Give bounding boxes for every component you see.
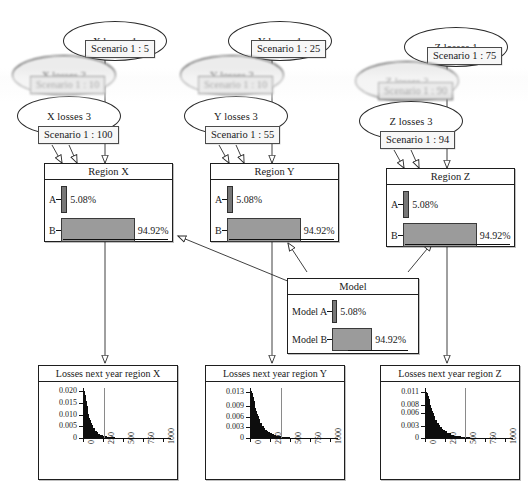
bar-label: B [215, 225, 222, 236]
scenario-tag-x-1[interactable]: Scenario 1 : 5 [85, 40, 155, 58]
chart-y-tick-label: 0.006 [381, 408, 419, 417]
bar-value: 5.08% [340, 306, 366, 317]
chart-x-tick-label: 0 [87, 440, 96, 444]
bar-fill-a [61, 186, 67, 213]
chart-x-tickmark [310, 438, 311, 442]
scenario-tag-label: Scenario 1 : 55 [211, 129, 274, 140]
scenario-tag-x-2[interactable]: Scenario 1 : 10 [30, 76, 105, 94]
panel-body: A 5.08% B 94.92% [45, 180, 172, 241]
bar-label: B [49, 225, 56, 236]
bar-value: 94.92% [138, 225, 169, 236]
bar-label: Model A [292, 306, 327, 317]
chart-y-tick-label: 0.008 [381, 400, 419, 409]
diagram-canvas: X losses 1 Scenario 1 : 5 X losses 2 Sce… [0, 0, 528, 486]
chart-plot-y: 00.0030.0060.0090.01302505007501000 [206, 382, 344, 478]
scenario-tag-x-3[interactable]: Scenario 1 : 100 [38, 126, 119, 144]
scenario-tag-z-2[interactable]: Scenario 1 : 90 [378, 82, 453, 100]
chart-y-tick-label: 0.006 [206, 412, 244, 421]
panel-body: Model A 5.08% Model B 94.92% [288, 295, 418, 353]
panel-baseline [229, 239, 334, 240]
bar-row-model-b: Model B 94.92% [292, 328, 406, 351]
chart-x-tickmark [270, 438, 271, 442]
chart-plot-z: 00.0030.0060.0080.01102505007501000 [381, 382, 519, 478]
chart-y-tick-label: 0.010 [39, 410, 77, 419]
chart-y-tick-label: 0.003 [206, 422, 244, 431]
bar-fill-a [403, 191, 409, 218]
chart-x-tick-label: 500 [294, 432, 303, 444]
chart-reference-line [281, 388, 282, 438]
chart-x-tick-label: 500 [127, 432, 136, 444]
chart-panel-region-z[interactable]: Losses next year region Z 00.0030.0060.0… [380, 365, 520, 480]
chart-x-tickmark [465, 438, 466, 442]
node-ellipse-label: Y losses 3 [214, 111, 258, 122]
scenario-tag-y-3[interactable]: Scenario 1 : 55 [205, 126, 280, 144]
chart-x-tickmark [123, 438, 124, 442]
panel-baseline [405, 244, 510, 245]
chart-x-tick-label: 750 [314, 432, 323, 444]
chart-y-tick-label: 0.015 [39, 398, 77, 407]
scenario-tag-label: Scenario 1 : 10 [36, 79, 99, 90]
panel-baseline [348, 350, 408, 351]
chart-x-tick-label: 250 [107, 432, 116, 444]
chart-x-tickmark [330, 438, 331, 442]
chart-y-tickmark [246, 406, 250, 407]
chart-x-tickmark [290, 438, 291, 442]
bar-label: A [215, 194, 222, 205]
chart-y-tick-label: 0 [206, 433, 244, 442]
chart-x-tick-label: 1000 [509, 428, 518, 444]
chart-y-tick-label: 0.013 [206, 387, 244, 396]
chart-y-tickmark [79, 415, 83, 416]
scenario-tag-label: Scenario 1 : 5 [91, 43, 149, 54]
chart-x-tick-label: 0 [429, 440, 438, 444]
bar-label: Model B [292, 334, 327, 345]
panel-model[interactable]: Model Model A 5.08% Model B 94.92% [287, 278, 419, 354]
bar-fill-model-b [332, 328, 372, 351]
scenario-tag-z-3[interactable]: Scenario 1 : 94 [380, 131, 455, 149]
chart-x-tick-label: 0 [254, 440, 263, 444]
scenario-tag-label: Scenario 1 : 75 [433, 50, 496, 61]
bar-label: A [391, 199, 398, 210]
bar-row-a: A 5.08% [49, 186, 96, 213]
panel-title: Region Z [387, 169, 514, 185]
chart-title: Losses next year region X [39, 366, 177, 382]
chart-x-tick-label: 1000 [167, 428, 176, 444]
chart-x-tickmark [163, 438, 164, 442]
bar-value: 5.08% [236, 194, 262, 205]
chart-x-tickmark [103, 438, 104, 442]
panel-baseline [63, 239, 168, 240]
chart-x-tick-label: 750 [489, 432, 498, 444]
chart-x-tickmark [445, 438, 446, 442]
chart-x-tickmark [250, 438, 251, 442]
chart-y-tickmark [246, 427, 250, 428]
chart-plot-x: 00.0050.0100.0150.02002505007501000 [39, 382, 177, 478]
chart-y-tickmark [79, 403, 83, 404]
scenario-tag-label: Scenario 1 : 25 [257, 43, 320, 54]
panel-region-z[interactable]: Region Z A 5.08% B 94.92% [386, 168, 515, 247]
bar-fill-a [227, 186, 233, 213]
bar-value: 94.92% [480, 230, 511, 241]
scenario-tag-label: Scenario 1 : 90 [384, 85, 447, 96]
chart-x-tickmark [143, 438, 144, 442]
chart-panel-region-y[interactable]: Losses next year region Y 00.0030.0060.0… [205, 365, 345, 480]
bar-value: 94.92% [375, 334, 406, 345]
chart-x-tick-label: 500 [469, 432, 478, 444]
chart-y-tickmark [421, 392, 425, 393]
chart-y-tick-label: 0 [381, 433, 419, 442]
scenario-tag-y-2[interactable]: Scenario 1 : 10 [198, 76, 273, 94]
panel-region-x[interactable]: Region X A 5.08% B 94.92% [44, 163, 173, 242]
scenario-tag-y-1[interactable]: Scenario 1 : 25 [251, 40, 326, 58]
chart-y-tickmark [246, 392, 250, 393]
chart-y-tick-label: 0.003 [381, 421, 419, 430]
chart-y-tickmark [421, 413, 425, 414]
chart-title: Losses next year region Z [381, 366, 519, 382]
panel-title: Model [288, 279, 418, 295]
scenario-tag-z-1[interactable]: Scenario 1 : 75 [427, 47, 502, 65]
chart-x-tick-label: 1000 [334, 428, 343, 444]
panel-title: Region Y [211, 164, 338, 180]
bar-label: A [49, 194, 56, 205]
chart-panel-region-x[interactable]: Losses next year region X 00.0050.0100.0… [38, 365, 178, 480]
chart-y-tickmark [421, 426, 425, 427]
panel-region-y[interactable]: Region Y A 5.08% B 94.92% [210, 163, 339, 242]
bar-fill-model-a [332, 300, 337, 323]
chart-y-tick-label: 0 [39, 433, 77, 442]
